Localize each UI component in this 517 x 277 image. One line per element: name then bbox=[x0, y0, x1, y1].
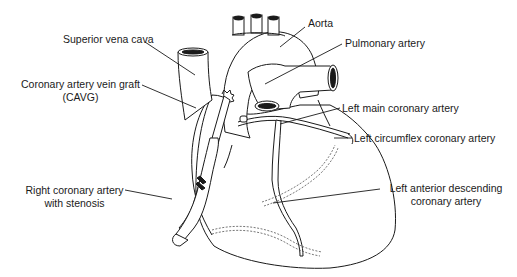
label-cavg-line2: (CAVG) bbox=[18, 91, 143, 104]
label-right-coronary-artery: Right coronary artery with stenosis bbox=[22, 184, 127, 210]
svc-opening bbox=[182, 50, 204, 54]
aorta-branch-1-opening bbox=[234, 16, 244, 20]
label-cavg: Coronary artery vein graft (CAVG) bbox=[18, 78, 143, 104]
label-pulmonary-artery: Pulmonary artery bbox=[345, 37, 425, 50]
label-left-main-coronary: Left main coronary artery bbox=[342, 102, 459, 115]
label-left-circumflex: Left circumflex coronary artery bbox=[354, 132, 495, 145]
label-superior-vena-cava: Superior vena cava bbox=[63, 33, 153, 46]
leader-rca bbox=[125, 190, 172, 199]
label-rca-line2: with stenosis bbox=[22, 197, 127, 210]
aorta-branch-3-opening bbox=[269, 16, 279, 20]
label-cavg-line1: Coronary artery vein graft bbox=[18, 78, 143, 91]
aorta-branch-2-opening bbox=[252, 14, 262, 18]
label-lad-line1: Left anterior descending bbox=[381, 182, 511, 195]
heart-diagram: Superior vena cava Aorta Pulmonary arter… bbox=[0, 0, 517, 277]
label-rca-line1: Right coronary artery bbox=[22, 184, 127, 197]
label-aorta: Aorta bbox=[308, 17, 333, 30]
label-lad: Left anterior descending coronary artery bbox=[381, 182, 511, 208]
label-lad-line2: coronary artery bbox=[381, 195, 511, 208]
